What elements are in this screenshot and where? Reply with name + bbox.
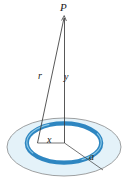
label-inner-radius-x: x — [47, 135, 51, 145]
label-point-p: P — [60, 2, 67, 13]
physics-figure: P r y x a — [0, 0, 129, 179]
label-axial-distance-y: y — [64, 72, 68, 82]
label-outer-radius-a: a — [89, 152, 94, 162]
label-slant-distance-r: r — [38, 71, 42, 81]
figure-canvas — [0, 0, 129, 179]
